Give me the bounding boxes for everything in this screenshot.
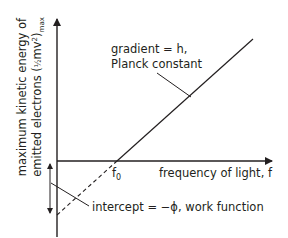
threshold-frequency-label: f0 xyxy=(112,166,121,182)
gradient-pointer-line xyxy=(157,73,191,97)
photoelectric-graph: maximum kinetic energy of emitted electr… xyxy=(0,0,288,238)
gradient-label-line2: Planck constant xyxy=(111,57,203,71)
y-axis-label: maximum kinetic energy of xyxy=(15,17,29,176)
gradient-label-line1: gradient = h, xyxy=(111,42,187,56)
y-axis-label-2: emitted electrons (½mv2)max xyxy=(30,17,46,177)
x-axis-label: frequency of light, f xyxy=(159,166,273,180)
intercept-label: intercept = −ϕ, work function xyxy=(92,200,264,214)
y-axis-label-line1: maximum kinetic energy of xyxy=(15,17,29,176)
y-axis-label-line2: emitted electrons (½mv2)max xyxy=(30,17,46,177)
